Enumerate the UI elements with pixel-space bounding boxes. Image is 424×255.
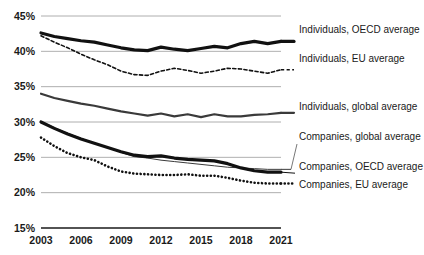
x-tick-label-2003: 2003 — [29, 234, 53, 246]
legend-label-individuals-oecd-average: Individuals, OECD average — [299, 24, 420, 35]
x-axis-tick-labels: 2003200620092012201520182021 — [29, 234, 293, 246]
series-line-companies-oecd-average — [41, 122, 281, 172]
legend-label-companies-global-average: Companies, global average — [299, 131, 421, 142]
leader-companies-oecd — [281, 172, 295, 173]
y-tick-label-35: 35% — [14, 80, 36, 92]
x-tick-label-2021: 2021 — [269, 234, 293, 246]
legend: Individuals, OECD averageIndividuals, EU… — [299, 24, 423, 190]
x-tick-label-2009: 2009 — [109, 234, 133, 246]
y-tick-label-40: 40% — [14, 45, 36, 57]
series-line-companies-global-average — [41, 121, 281, 169]
legend-label-companies-eu-average: Companies, EU average — [299, 179, 408, 190]
x-tick-label-2006: 2006 — [69, 234, 93, 246]
y-tick-label-20: 20% — [14, 186, 36, 198]
legend-label-companies-oecd-average: Companies, OECD average — [299, 161, 423, 172]
line-chart: 45%40%35%30%25%20%15% 200320062009201220… — [0, 0, 424, 255]
x-tick-label-2012: 2012 — [149, 234, 173, 246]
y-tick-label-45: 45% — [14, 10, 36, 22]
y-tick-label-30: 30% — [14, 116, 36, 128]
legend-label-individuals-global-average: Individuals, global average — [299, 101, 418, 112]
series-line-individuals-global-average — [41, 94, 281, 117]
y-axis-tick-labels: 45%40%35%30%25%20%15% — [14, 10, 36, 234]
x-tick-label-2015: 2015 — [189, 234, 213, 246]
y-tick-label-15: 15% — [14, 222, 36, 234]
chart-canvas: 45%40%35%30%25%20%15% 200320062009201220… — [0, 0, 424, 255]
legend-label-individuals-eu-average: Individuals, EU average — [299, 53, 405, 64]
series-line-individuals-oecd-average — [41, 33, 281, 51]
legend-leader-lines — [281, 41, 297, 183]
series-lines — [41, 33, 281, 184]
leader-callout-companies-global — [291, 144, 297, 169]
x-tick-label-2018: 2018 — [229, 234, 253, 246]
y-tick-label-25: 25% — [14, 151, 36, 163]
